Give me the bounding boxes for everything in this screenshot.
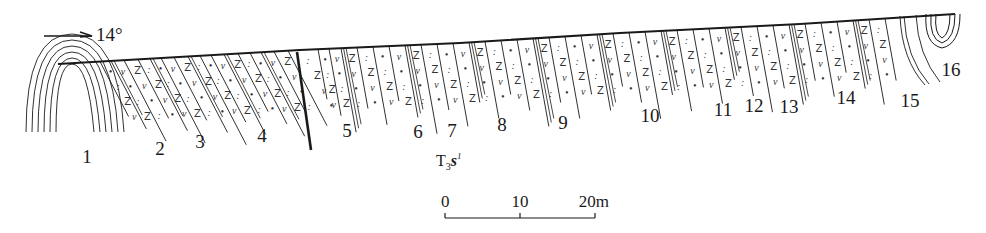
svg-text:ν: ν [800,44,805,55]
svg-text:Z: Z [706,64,713,75]
svg-text::: : [147,64,150,75]
svg-text::: : [749,32,752,43]
svg-text:ν: ν [192,77,197,88]
svg-text:•: • [501,91,505,102]
ground-surface-line [58,14,955,64]
svg-text::: : [869,70,872,81]
svg-text:ν: ν [352,68,357,79]
svg-text::: : [429,49,432,60]
svg-text:•: • [693,80,697,91]
svg-text::: : [741,77,744,88]
svg-text:•: • [757,77,761,88]
svg-text:ν: ν [242,74,247,85]
svg-text:Z: Z [789,75,796,86]
svg-text:•: • [150,95,154,106]
svg-text::: : [576,56,579,67]
layer-label-9: 9 [558,112,568,133]
svg-text:•: • [179,78,183,89]
svg-text:Z: Z [514,75,521,86]
svg-text::: : [621,38,624,49]
svg-text::: : [704,49,707,60]
svg-text:•: • [738,62,742,73]
svg-text::: : [357,98,360,109]
svg-text:ν: ν [163,94,168,105]
svg-text:ν: ν [626,68,631,79]
svg-text:Z: Z [560,57,567,68]
svg-text:•: • [821,73,825,84]
layer-label-7: 7 [447,120,457,141]
svg-text::: : [640,52,643,63]
svg-text:Z: Z [174,93,181,104]
scale-bar: 01020m [441,192,609,218]
svg-text:Z: Z [688,50,695,61]
svg-text:•: • [229,75,233,86]
svg-text:•: • [381,51,385,62]
svg-text:Z: Z [234,59,241,70]
svg-text:Z: Z [155,79,162,90]
svg-text:Z: Z [349,53,356,64]
svg-text:ν: ν [370,82,375,93]
svg-text:•: • [464,63,468,74]
svg-text:•: • [437,94,441,105]
svg-text:•: • [765,31,769,42]
svg-text::: : [512,60,515,71]
svg-text:ν: ν [818,58,823,69]
svg-text:•: • [701,34,705,45]
svg-text:ν: ν [544,58,549,69]
svg-text::: : [549,88,552,99]
svg-text:•: • [656,51,660,62]
svg-text:ν: ν [562,72,567,83]
svg-text::: : [308,101,311,112]
layer-label-11: 11 [714,99,732,120]
svg-text:•: • [610,69,614,80]
svg-text::: : [158,110,161,121]
svg-text:Z: Z [294,102,301,113]
svg-text:•: • [829,27,833,38]
svg-text:•: • [573,41,577,52]
svg-text:Z: Z [405,96,412,107]
svg-text:Z: Z [184,62,191,73]
layer-label-14: 14 [837,87,857,108]
svg-text:ν: ν [271,57,276,68]
anticline-fold [26,34,124,132]
svg-text:•: • [546,73,550,84]
svg-text::: : [326,69,329,80]
svg-text:Z: Z [194,108,201,119]
svg-text:Z: Z [255,73,262,84]
svg-text:•: • [482,77,486,88]
svg-text::: : [258,104,261,115]
svg-text:Z: Z [605,39,612,50]
layer-labels: 12345678910111213141516 [82,59,960,167]
layer-label-4: 4 [257,125,267,146]
svg-text:Z: Z [578,71,585,82]
svg-text:ν: ν [322,85,327,96]
svg-text::: : [877,24,880,35]
svg-text:Z: Z [386,81,393,92]
svg-text:Z: Z [669,36,676,47]
svg-text:ν: ν [132,111,137,122]
svg-text::: : [247,58,250,69]
svg-text:•: • [674,66,678,77]
svg-text:ν: ν [653,36,658,47]
svg-text:ν: ν [389,96,394,107]
svg-text:•: • [418,80,422,91]
svg-text::: : [365,52,368,63]
layer-label-2: 2 [155,138,165,159]
svg-text:•: • [720,48,724,59]
svg-text:•: • [338,68,342,79]
svg-text:ν: ν [182,108,187,119]
svg-text:•: • [528,59,532,70]
svg-text:•: • [637,37,641,48]
svg-text:•: • [129,81,133,92]
svg-text:ν: ν [335,53,340,64]
svg-text::: : [850,56,853,67]
scale-tick-label: 0 [441,192,450,211]
svg-text:ν: ν [282,103,287,114]
svg-text::: : [448,64,451,75]
svg-text:•: • [565,87,569,98]
svg-text:ν: ν [232,105,237,116]
svg-text:ν: ν [525,44,530,55]
svg-text:ν: ν [517,90,522,101]
svg-text::: : [466,78,469,89]
svg-text:Z: Z [624,53,631,64]
